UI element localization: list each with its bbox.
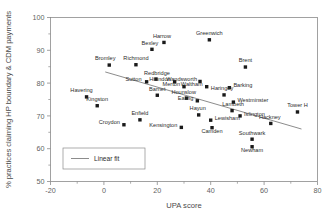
scatter-plot-figure: -200204060805060708090100UPA score% prac… bbox=[0, 0, 330, 221]
data-point-label: Bromley bbox=[95, 55, 116, 61]
data-point-label: Camden bbox=[201, 128, 222, 134]
y-tick-label: 100 bbox=[33, 13, 45, 22]
data-point-label: Barking bbox=[233, 82, 252, 88]
x-tick-label: -20 bbox=[45, 186, 55, 195]
x-tick-label: 60 bbox=[260, 186, 268, 195]
data-point-label: Haringey bbox=[211, 85, 234, 91]
y-tick-label: 80 bbox=[37, 79, 45, 88]
data-point-label: Croydon bbox=[99, 119, 120, 125]
y-tick-label: 70 bbox=[37, 112, 45, 121]
data-point-marker[interactable] bbox=[138, 118, 141, 121]
data-point-marker[interactable] bbox=[196, 99, 199, 102]
data-point-marker[interactable] bbox=[150, 48, 153, 51]
data-point-label: Barnet bbox=[149, 86, 166, 92]
data-point-label: Kensington bbox=[149, 122, 177, 128]
data-point-label: Kingston bbox=[86, 96, 108, 102]
x-tick-label: 20 bbox=[153, 186, 161, 195]
data-point-label: Lambeth bbox=[222, 101, 244, 107]
data-point-marker[interactable] bbox=[162, 41, 165, 44]
x-tick-label: 0 bbox=[102, 186, 106, 195]
data-point-marker[interactable] bbox=[209, 118, 212, 121]
y-tick-label: 90 bbox=[37, 46, 45, 55]
data-point-label: Tower H bbox=[287, 102, 308, 108]
data-point-marker[interactable] bbox=[156, 94, 159, 97]
data-point-marker[interactable] bbox=[145, 80, 148, 83]
data-point-marker[interactable] bbox=[108, 63, 111, 66]
data-point-marker[interactable] bbox=[269, 122, 272, 125]
data-point-marker[interactable] bbox=[222, 93, 225, 96]
data-point-marker[interactable] bbox=[238, 114, 241, 117]
data-point-label: Bexley bbox=[142, 40, 159, 46]
x-tick-label: 80 bbox=[314, 186, 322, 195]
data-point-marker[interactable] bbox=[122, 123, 125, 126]
data-point-marker[interactable] bbox=[230, 109, 233, 112]
data-point-label: Havering bbox=[70, 87, 92, 93]
data-point-label: Hayun bbox=[190, 105, 206, 111]
x-axis-title: UPA score bbox=[166, 201, 201, 210]
data-point-label: Sutton bbox=[125, 76, 141, 82]
y-tick-label: 60 bbox=[37, 144, 45, 153]
data-point-marker[interactable] bbox=[197, 113, 200, 116]
data-point-label: Harrow bbox=[153, 33, 172, 39]
data-point-label: Enfield bbox=[131, 110, 148, 116]
data-point-label: Brent bbox=[239, 57, 253, 63]
data-point-marker[interactable] bbox=[205, 85, 208, 88]
y-axis-title: % practices claiming HP boundary & CDM p… bbox=[4, 11, 13, 188]
data-point-marker[interactable] bbox=[134, 63, 137, 66]
y-tick-label: 50 bbox=[37, 177, 45, 186]
data-point-marker[interactable] bbox=[244, 65, 247, 68]
data-point-label: Ealing bbox=[178, 95, 194, 101]
data-point-marker[interactable] bbox=[296, 110, 299, 113]
data-point-label: Redbridge bbox=[144, 70, 170, 76]
x-tick-label: 40 bbox=[207, 186, 215, 195]
data-point-label: Hackney bbox=[259, 114, 281, 120]
data-point-label: Richmond bbox=[123, 55, 148, 61]
data-point-label: Hounslow bbox=[171, 89, 197, 95]
data-point-marker[interactable] bbox=[180, 126, 183, 129]
chart-canvas: -200204060805060708090100UPA score% prac… bbox=[0, 0, 330, 221]
data-point-label: Newham bbox=[241, 147, 263, 153]
data-point-marker[interactable] bbox=[96, 104, 99, 107]
data-point-marker[interactable] bbox=[250, 137, 253, 140]
data-point-label: Waltham bbox=[181, 81, 203, 87]
legend-label: Linear fit bbox=[94, 155, 119, 162]
data-point-label: Lewisham bbox=[215, 115, 241, 121]
data-point-label: Southwark bbox=[239, 130, 266, 136]
data-point-marker[interactable] bbox=[208, 38, 211, 41]
data-point-label: Greenwich bbox=[196, 30, 223, 36]
